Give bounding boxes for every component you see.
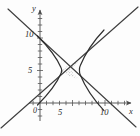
x-axis-label: x [129,107,133,116]
origin-label: 0 [33,107,37,115]
y-axis-label: y [32,4,36,13]
plot-canvas [0,0,140,136]
hyperbola-right-branch [79,30,104,111]
math-figure: 0 5 10 5 10 x y [0,0,140,136]
asymptote-lines [1,7,138,128]
x-tick-label-10: 10 [100,108,109,117]
stippled-region [63,63,79,79]
x-tick-label-5: 5 [58,108,62,117]
y-tick-label-5: 5 [28,66,32,75]
y-tick-label-10: 10 [25,30,34,39]
